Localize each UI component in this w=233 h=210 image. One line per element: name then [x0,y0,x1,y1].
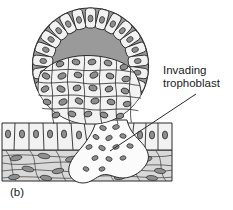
label-invading-trophoblast: Invading trophoblast [163,64,220,89]
figure-panel: Invading trophoblast (b) [0,0,233,210]
implantation-diagram [0,0,233,210]
blastocyst [32,8,148,124]
panel-letter: (b) [10,186,24,199]
label-line-2: trophoblast [163,77,220,90]
label-line-1: Invading [163,64,220,77]
uterine-epithelium-left [2,122,96,150]
